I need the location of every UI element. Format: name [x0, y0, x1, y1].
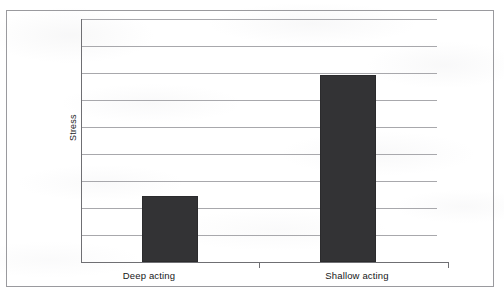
gridline-7 — [81, 181, 437, 182]
bar-chart-figure: Stress Deep acting Shallow acting — [0, 0, 504, 295]
category-label-shallow-acting: Shallow acting — [307, 270, 407, 281]
x-axis-line — [81, 262, 449, 263]
gridline-5 — [81, 127, 437, 128]
bar-shallow-acting — [320, 75, 376, 262]
gridline-2 — [81, 46, 437, 47]
gridline-8 — [81, 208, 437, 209]
y-axis-line — [81, 19, 82, 263]
gridline-4 — [81, 100, 437, 101]
x-axis-tick-end — [448, 262, 449, 268]
y-axis-title: Stress — [68, 125, 78, 141]
gridline-3 — [81, 73, 437, 74]
gridline-1 — [81, 19, 437, 20]
x-axis-tick-middle — [259, 262, 260, 268]
category-label-deep-acting: Deep acting — [109, 270, 189, 281]
gridline-6 — [81, 154, 437, 155]
gridline-9 — [81, 235, 437, 236]
bar-deep-acting — [142, 196, 198, 262]
plot-area — [81, 19, 437, 262]
